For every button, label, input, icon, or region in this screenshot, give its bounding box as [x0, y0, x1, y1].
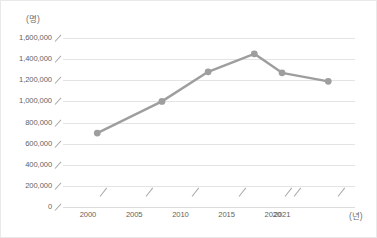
- data-point-marker: [94, 130, 101, 137]
- x-axis-tick-label: 2015: [218, 210, 235, 219]
- data-point-marker: [325, 78, 332, 85]
- x-axis-tick-label: 2010: [172, 210, 189, 219]
- plot-area: [63, 38, 355, 207]
- data-point-marker: [251, 50, 258, 57]
- data-series: [63, 38, 355, 207]
- x-axis-tick-label: 2021: [274, 210, 291, 219]
- gridline: [63, 207, 355, 208]
- line-chart: (명) (년) 1,600,0001,400,0001,200,0001,000…: [0, 0, 377, 238]
- data-point-marker: [159, 98, 166, 105]
- series-line: [97, 54, 328, 133]
- data-point-marker: [205, 68, 212, 75]
- x-axis-tick-label: 2000: [80, 210, 97, 219]
- data-point-marker: [279, 69, 286, 76]
- x-axis-tick-label: 2005: [126, 210, 143, 219]
- series-markers: [94, 50, 332, 136]
